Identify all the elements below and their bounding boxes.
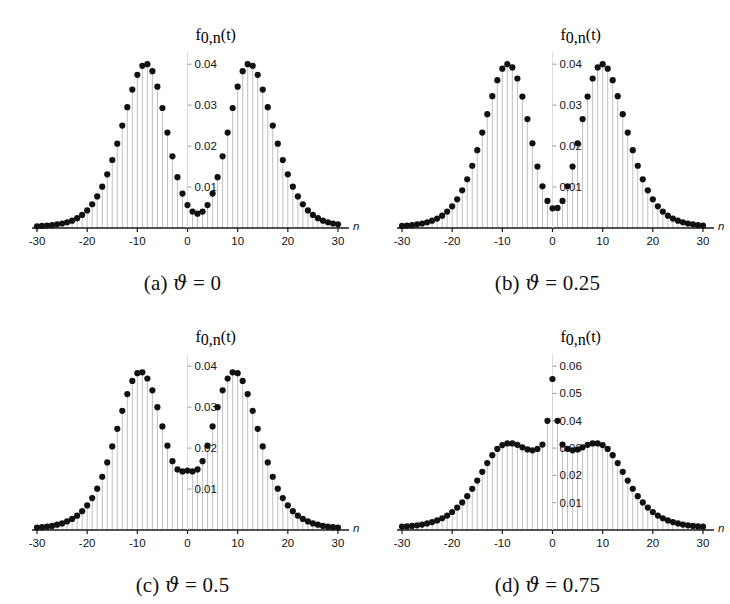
data-point xyxy=(184,202,190,208)
data-point xyxy=(635,493,641,499)
data-point xyxy=(250,408,256,414)
y-tick-label: 0.06 xyxy=(560,360,582,372)
y-axis-label: f0,n(t) xyxy=(561,26,601,46)
caption-index-a: (a) xyxy=(144,271,168,295)
data-point xyxy=(119,408,125,414)
data-point xyxy=(534,446,540,452)
data-point xyxy=(159,423,165,429)
data-point xyxy=(615,93,621,99)
panel-caption-c: (c) ϑ = 0.5 xyxy=(0,575,365,596)
data-point xyxy=(295,193,301,199)
caption-equals-d: = xyxy=(545,573,557,597)
caption-symbol-b: ϑ xyxy=(525,271,540,295)
data-point xyxy=(590,75,596,81)
data-point xyxy=(209,423,215,429)
data-point xyxy=(94,193,100,199)
data-point xyxy=(255,72,261,78)
y-axis-label: f0,n(t) xyxy=(561,328,601,348)
data-point xyxy=(479,469,485,475)
plot-area-d: -30-20-100102030n0.010.020.030.040.050.0… xyxy=(365,302,730,552)
data-point xyxy=(199,458,205,464)
data-point xyxy=(439,213,445,219)
data-point xyxy=(574,140,580,146)
data-point xyxy=(225,375,231,381)
data-point xyxy=(194,466,200,472)
data-point xyxy=(275,141,281,147)
data-point xyxy=(215,174,221,180)
data-point xyxy=(139,369,145,375)
x-tick-label: -10 xyxy=(129,537,146,549)
data-point xyxy=(265,104,271,110)
data-point xyxy=(514,75,520,81)
caption-index-c: (c) xyxy=(136,573,160,597)
y-tick-label: 0.03 xyxy=(195,99,217,111)
x-tick-label: -10 xyxy=(494,235,511,247)
data-point xyxy=(99,474,105,480)
data-point xyxy=(469,486,475,492)
data-point xyxy=(625,129,631,135)
data-point xyxy=(640,499,646,505)
data-point xyxy=(114,426,120,432)
data-point xyxy=(494,446,500,452)
data-point xyxy=(564,183,570,189)
data-point xyxy=(655,203,661,209)
data-point xyxy=(240,378,246,384)
x-tick-label: -30 xyxy=(29,235,46,247)
x-tick-label: 0 xyxy=(184,235,190,247)
x-tick-label: 20 xyxy=(281,537,294,549)
data-point xyxy=(280,495,286,501)
data-point xyxy=(539,441,545,447)
data-point xyxy=(469,163,475,169)
x-tick-label: 10 xyxy=(231,235,244,247)
data-point xyxy=(270,123,276,129)
data-point xyxy=(245,391,251,397)
y-axis-label: f0,n(t) xyxy=(196,328,236,348)
data-point xyxy=(280,157,286,163)
x-tick-label: -20 xyxy=(79,235,96,247)
data-point xyxy=(630,147,636,153)
x-tick-label: -20 xyxy=(79,537,96,549)
data-point xyxy=(605,66,611,72)
data-point xyxy=(235,370,241,376)
x-ticks: -30-20-100102030 xyxy=(29,228,345,247)
data-point xyxy=(300,201,306,207)
data-point xyxy=(474,147,480,153)
data-point xyxy=(285,502,291,508)
y-tick-label: 0.04 xyxy=(560,415,583,427)
x-tick-label: -10 xyxy=(494,537,511,549)
data-point xyxy=(610,77,616,83)
data-point xyxy=(285,171,291,177)
data-point xyxy=(464,493,470,499)
data-point xyxy=(144,61,150,67)
data-point xyxy=(630,486,636,492)
data-point xyxy=(179,191,185,197)
data-point xyxy=(605,446,611,452)
data-point xyxy=(459,187,465,193)
data-point xyxy=(199,209,205,215)
data-point xyxy=(204,202,210,208)
data-point xyxy=(290,184,296,190)
y-tick-label: 0.01 xyxy=(560,181,582,193)
y-tick-label: 0.01 xyxy=(195,483,217,495)
panel-d: -30-20-100102030n0.010.020.030.040.050.0… xyxy=(365,302,730,604)
data-point xyxy=(610,452,616,458)
data-point xyxy=(650,196,656,202)
data-point xyxy=(449,509,455,515)
caption-value-b: 0.25 xyxy=(563,271,601,295)
figure-grid: -30-20-100102030n0.010.020.030.04f0,n(t)… xyxy=(0,0,730,604)
data-point xyxy=(99,184,105,190)
data-point xyxy=(250,63,256,69)
data-point xyxy=(260,86,266,92)
x-tick-label: 10 xyxy=(231,537,244,549)
data-point xyxy=(235,84,241,90)
data-point xyxy=(489,93,495,99)
x-tick-label: 10 xyxy=(596,537,609,549)
data-point xyxy=(600,61,606,67)
data-point xyxy=(174,174,180,180)
plot-area-b: -30-20-100102030n0.010.020.030.04f0,n(t) xyxy=(365,0,730,250)
data-point xyxy=(444,209,450,215)
data-point xyxy=(225,129,231,135)
x-tick-label: -30 xyxy=(29,537,46,549)
x-tick-label: 30 xyxy=(697,537,710,549)
data-point xyxy=(109,443,115,449)
